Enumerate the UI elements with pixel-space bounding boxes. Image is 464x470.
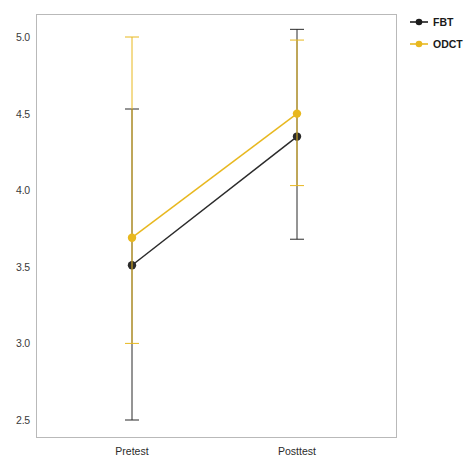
series-line <box>132 114 297 238</box>
x-tick-label-pretest: Pretest <box>115 445 148 457</box>
legend-item-fbt[interactable]: FBT <box>410 16 454 28</box>
data-point-marker <box>128 233 136 241</box>
legend-label-odct: ODCT <box>433 38 463 50</box>
legend-item-odct[interactable]: ODCT <box>410 38 463 50</box>
legend-label-fbt: FBT <box>433 16 454 28</box>
plot-frame <box>37 15 397 438</box>
y-tick-label: 3.0 <box>16 337 30 349</box>
legend-marker-icon <box>416 19 423 26</box>
chart-container: 5.0 4.5 4.0 3.5 3.0 2.5 Pretest Posttest… <box>0 0 464 470</box>
y-tick-label: 3.5 <box>16 261 30 273</box>
y-tick-label: 4.5 <box>16 108 30 120</box>
line-chart: 5.0 4.5 4.0 3.5 3.0 2.5 Pretest Posttest… <box>0 0 464 470</box>
y-tick-label: 4.0 <box>16 184 30 196</box>
series-line <box>132 137 297 266</box>
y-tick-label: 5.0 <box>16 31 30 43</box>
data-point-marker <box>293 109 301 117</box>
y-tick-label: 2.5 <box>16 414 30 426</box>
y-axis-tick-labels: 5.0 4.5 4.0 3.5 3.0 2.5 <box>16 31 30 426</box>
x-tick-label-posttest: Posttest <box>278 445 316 457</box>
data-plot-layer <box>125 29 304 420</box>
series-fbt <box>125 29 304 420</box>
x-axis-tick-labels: Pretest Posttest <box>115 445 316 457</box>
legend-marker-icon <box>416 41 423 48</box>
legend: FBT ODCT <box>410 16 463 50</box>
series-odct <box>125 37 304 343</box>
